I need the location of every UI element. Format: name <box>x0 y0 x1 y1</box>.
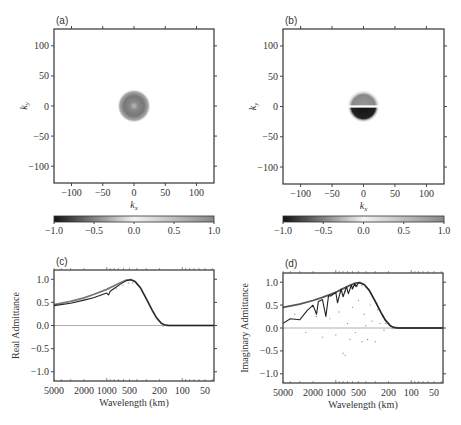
y-tick-label: 0.5 <box>266 300 279 311</box>
x-tick-label: 0 <box>361 188 366 199</box>
scatter-point <box>367 339 368 340</box>
y-axis-label: Real Admittance <box>10 291 21 358</box>
scatter-point <box>294 314 295 315</box>
x-tick-label: 2000 <box>74 385 94 396</box>
scatter-point <box>379 323 380 324</box>
panel-label-c: (c) <box>56 256 68 267</box>
y-tick-label: −0.5 <box>31 343 49 354</box>
scatter-point <box>339 311 340 312</box>
x-tick-label: 50 <box>429 387 439 398</box>
series-line-recovered <box>54 280 214 326</box>
y-axis-label: ky <box>18 101 31 109</box>
y-tick-label: 0.5 <box>37 297 50 308</box>
x-tick-label: 2000 <box>303 387 323 398</box>
y-tick-label: −100 <box>257 162 278 173</box>
colorbar-tick-label: 0.0 <box>357 225 370 236</box>
x-tick-label: 50 <box>390 188 400 199</box>
y-tick-label: 100 <box>34 40 49 51</box>
y-tick-label: 50 <box>268 71 278 82</box>
y-tick-label: 0.0 <box>37 320 50 331</box>
x-tick-label: 5000 <box>44 385 64 396</box>
scatter-point <box>349 339 350 340</box>
colorbar-tick-label: 1.0 <box>438 225 451 236</box>
colorbar-tick-label: 1.0 <box>208 225 221 236</box>
panel-label-d: (d) <box>285 258 297 269</box>
series-line-theoretical <box>283 283 443 328</box>
colorbar <box>283 216 444 222</box>
x-tick-label: −50 <box>324 188 340 199</box>
x-tick-label: 500 <box>351 387 366 398</box>
x-tick-label: 5000 <box>273 387 293 398</box>
ring-mark <box>117 89 151 123</box>
y-tick-label: −0.5 <box>260 345 278 356</box>
scatter-point <box>347 323 348 324</box>
y-tick-label: −100 <box>28 161 49 172</box>
scatter-point <box>329 318 330 319</box>
x-tick-label: −100 <box>61 187 82 198</box>
scatter-point <box>375 341 376 342</box>
x-tick-label: 0 <box>132 187 137 198</box>
x-tick-label: 100 <box>175 385 190 396</box>
scatter-point <box>361 341 362 342</box>
heatmap-panel-a: −100−50050100−100−50050100kxky−1.0−0.50.… <box>18 26 220 236</box>
x-tick-label: 200 <box>381 387 396 398</box>
scatter-point <box>345 355 346 356</box>
x-tick-label: −100 <box>290 188 311 199</box>
scatter-point <box>371 320 372 321</box>
x-axis-label: kx <box>130 199 138 212</box>
x-tick-label: 50 <box>200 385 210 396</box>
x-tick-label: 50 <box>160 187 170 198</box>
colorbar-tick-label: 0.5 <box>168 225 181 236</box>
y-tick-label: −50 <box>33 131 49 142</box>
x-tick-label: 1000 <box>326 387 346 398</box>
scatter-point <box>132 282 134 284</box>
scatter-point <box>342 353 343 354</box>
y-tick-label: 1.0 <box>37 274 50 285</box>
x-tick-label: 100 <box>419 188 434 199</box>
colorbar-tick-label: −0.5 <box>314 225 332 236</box>
scatter-point <box>358 300 359 301</box>
y-tick-label: 0.0 <box>266 323 279 334</box>
y-tick-label: −1.0 <box>31 366 49 377</box>
scatter-point <box>369 304 370 305</box>
scatter-point <box>355 332 356 333</box>
series-line-recovered <box>283 283 443 328</box>
y-tick-label: −50 <box>262 131 278 142</box>
x-tick-label: 500 <box>122 385 137 396</box>
panel-label-b: (b) <box>285 15 297 26</box>
scatter-point <box>122 285 124 287</box>
heatmap-panel-b: −100−50050100−100−50050100kxky−1.0−0.50.… <box>247 26 450 236</box>
scatter-point <box>162 325 164 327</box>
colorbar-tick-label: −0.5 <box>85 225 103 236</box>
colorbar-tick-label: 0.0 <box>128 225 141 236</box>
scatter-point <box>128 282 130 284</box>
x-tick-label: 100 <box>404 387 419 398</box>
colorbar-tick-label: 0.5 <box>398 225 411 236</box>
scatter-point <box>391 328 393 330</box>
y-axis-label: Imaginary Admittance <box>239 283 250 373</box>
y-tick-label: 1.0 <box>266 277 279 288</box>
y-axis-label: ky <box>247 102 260 110</box>
scatter-point <box>377 309 378 310</box>
scatter-point <box>352 307 353 308</box>
scatter-point <box>322 336 323 337</box>
scatter-point <box>335 334 336 335</box>
series-line-theoretical <box>54 280 214 326</box>
colorbar-tick-label: −1.0 <box>274 225 292 236</box>
scatter-point <box>385 323 386 324</box>
x-tick-label: 1000 <box>97 385 117 396</box>
x-tick-label: 200 <box>152 385 167 396</box>
scatter-point <box>305 332 306 333</box>
x-tick-label: −50 <box>95 187 111 198</box>
x-axis-label: Wavelength (km) <box>99 397 168 409</box>
scatter-point <box>383 330 384 331</box>
scatter-point <box>365 325 366 326</box>
x-axis-label: kx <box>360 200 368 213</box>
panel-label-a: (a) <box>56 15 68 26</box>
x-tick-label: 100 <box>189 187 204 198</box>
colorbar <box>54 216 214 222</box>
y-tick-label: 50 <box>39 70 49 81</box>
line-panel-c: 500020001000500200100501.00.50.0−0.5−1.0… <box>10 267 217 409</box>
scatter-point <box>364 314 365 315</box>
y-tick-label: 100 <box>263 40 278 51</box>
